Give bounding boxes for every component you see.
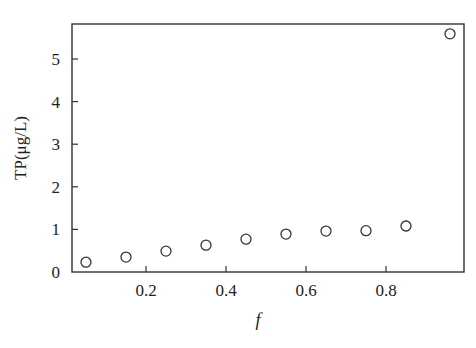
data-points [81, 29, 455, 267]
data-point [201, 240, 211, 250]
y-axis-label: TP(μg/L) [11, 116, 30, 180]
y-tick-label: 4 [52, 93, 61, 112]
y-tick-label: 3 [52, 135, 61, 154]
y-tick-label: 1 [52, 220, 61, 239]
x-tick-label: 0.8 [375, 281, 396, 300]
data-point [445, 29, 455, 39]
data-point [321, 226, 331, 236]
x-tick-label: 0.6 [295, 281, 316, 300]
x-tick-label: 0.2 [135, 281, 156, 300]
x-axis-ticks: 0.20.40.60.8 [135, 266, 396, 300]
y-axis-ticks: 012345 [52, 50, 79, 282]
y-tick-label: 5 [52, 50, 61, 69]
data-point [81, 257, 91, 267]
scatter-chart: 012345 0.20.40.60.8 TP(μg/L) f [0, 0, 476, 348]
x-axis-label: f [255, 310, 263, 330]
y-tick-label: 2 [52, 178, 61, 197]
data-point [121, 252, 131, 262]
data-point [241, 234, 251, 244]
plot-frame [72, 24, 464, 272]
data-point [161, 246, 171, 256]
data-point [401, 221, 411, 231]
data-point [361, 226, 371, 236]
y-tick-label: 0 [52, 263, 61, 282]
data-point [281, 229, 291, 239]
x-tick-label: 0.4 [215, 281, 237, 300]
